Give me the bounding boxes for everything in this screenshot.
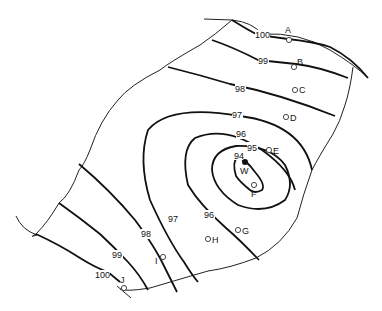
contour-label-97-top: 97	[232, 110, 242, 120]
map-boundary-left-lower	[16, 170, 79, 236]
contour-label-98-top: 98	[235, 84, 245, 94]
point-e-marker[interactable]	[266, 147, 271, 152]
contour-label-95: 95	[247, 143, 257, 153]
contour-map: 100 99 98 97 96 95 94 96 97 98 99 100 A …	[0, 0, 382, 311]
contour-label-97-bottom: 97	[168, 214, 178, 224]
point-g-label: G	[242, 226, 249, 236]
point-f-label: F	[251, 189, 257, 199]
well-w-label: W	[240, 166, 249, 176]
contour-label-94: 94	[234, 151, 244, 161]
point-b-label: B	[297, 57, 303, 67]
point-a-marker[interactable]	[286, 37, 291, 42]
point-d-marker[interactable]	[283, 114, 288, 119]
point-e-label: E	[273, 146, 279, 156]
contour-94	[234, 158, 263, 192]
point-i-marker[interactable]	[160, 254, 165, 259]
point-g-marker[interactable]	[235, 227, 240, 232]
point-b-marker[interactable]	[291, 64, 296, 69]
point-f-marker[interactable]	[251, 182, 256, 187]
contour-label-99-bottom: 99	[112, 250, 122, 260]
contour-label-100-bottom: 100	[95, 270, 110, 280]
map-boundary-left	[79, 20, 232, 170]
contour-label-100-top: 100	[255, 30, 270, 40]
contour-labels: 100 99 98 97 96 95 94 96 97 98 99 100	[95, 30, 270, 280]
point-h-label: H	[212, 235, 219, 245]
point-d-label: D	[290, 113, 297, 123]
point-a-label: A	[285, 25, 291, 35]
point-j-label: J	[120, 275, 125, 285]
contour-label-96-bottom: 96	[204, 210, 214, 220]
well-w-marker[interactable]	[242, 159, 248, 165]
contour-98-top	[168, 67, 335, 116]
contour-label-98-bottom: 98	[141, 229, 151, 239]
contour-label-96-top: 96	[236, 129, 246, 139]
point-c-label: C	[299, 85, 306, 95]
contour-label-99-top: 99	[258, 56, 268, 66]
point-c-marker[interactable]	[292, 87, 297, 92]
point-j-marker[interactable]	[121, 285, 126, 290]
contour-100-top	[232, 20, 368, 78]
point-h-marker[interactable]	[205, 236, 210, 241]
point-i-label: I	[155, 256, 158, 266]
